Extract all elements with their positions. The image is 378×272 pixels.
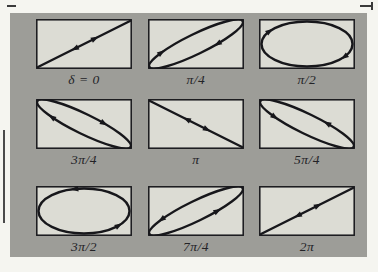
panel-delta-0: δ = 0 xyxy=(36,19,132,88)
trajectory-plot-5pi-4 xyxy=(259,99,355,149)
trajectory-plot-pi xyxy=(148,99,244,149)
phase-label-pi-2: π/2 xyxy=(259,72,355,88)
phase-label-delta-0: δ = 0 xyxy=(36,72,132,88)
panel-pi: π xyxy=(148,99,244,168)
phase-label-3pi-4: 3π/4 xyxy=(36,152,132,168)
phase-label-pi: π xyxy=(148,152,244,168)
trajectory-plot-pi-4 xyxy=(148,19,244,69)
panel-box xyxy=(37,100,131,148)
trajectory-plot-3pi-4 xyxy=(36,99,132,149)
panel-pi-2: π/2 xyxy=(259,19,355,88)
panel-7pi-4: 7π/4 xyxy=(148,186,244,255)
scan-mark-top-right-v xyxy=(371,2,373,10)
scan-mark-left-edge xyxy=(3,130,5,223)
panel-box xyxy=(149,187,243,235)
trajectory-plot-delta-0 xyxy=(36,19,132,69)
panel-5pi-4: 5π/4 xyxy=(259,99,355,168)
panel-box xyxy=(260,100,354,148)
panel-3pi-4: 3π/4 xyxy=(36,99,132,168)
lissajous-figure: δ = 0π/4π/23π/4π5π/43π/27π/42π xyxy=(10,13,367,257)
panel-3pi-2: 3π/2 xyxy=(36,186,132,255)
panel-pi-4: π/4 xyxy=(148,19,244,88)
panel-box xyxy=(260,20,354,68)
trajectory-plot-3pi-2 xyxy=(36,186,132,236)
trajectory-plot-7pi-4 xyxy=(148,186,244,236)
phase-label-5pi-4: 5π/4 xyxy=(259,152,355,168)
scan-mark-top-left xyxy=(7,5,16,7)
phase-label-3pi-2: 3π/2 xyxy=(36,239,132,255)
trajectory-plot-2pi xyxy=(259,186,355,236)
phase-label-7pi-4: 7π/4 xyxy=(148,239,244,255)
panel-box xyxy=(149,20,243,68)
trajectory-plot-pi-2 xyxy=(259,19,355,69)
panel-2pi: 2π xyxy=(259,186,355,255)
phase-label-pi-4: π/4 xyxy=(148,72,244,88)
phase-label-2pi: 2π xyxy=(259,239,355,255)
